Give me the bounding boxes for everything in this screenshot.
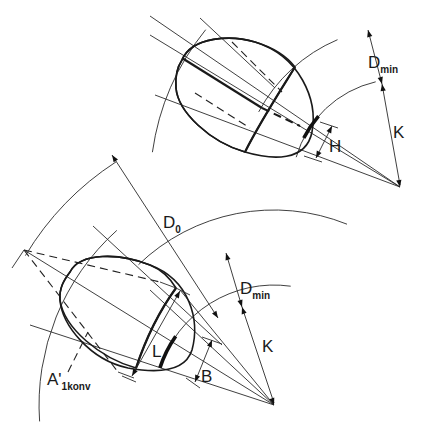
bottom-k-arrow-up xyxy=(242,307,247,315)
top-ray-axis xyxy=(150,35,400,187)
top-ray-upper xyxy=(150,16,400,187)
bottom-ray-upper-guide xyxy=(93,226,222,345)
top-axis-dashed xyxy=(262,108,300,126)
bottom-ray-lower xyxy=(30,325,274,405)
bottom-l-dim-line xyxy=(132,291,180,376)
top-ray-lower xyxy=(155,95,400,187)
bottom-ray-upper xyxy=(180,290,274,405)
top-guide-dashed-lower xyxy=(195,93,250,128)
bottom-a1konv-label: A'1konv xyxy=(47,370,91,392)
bottom-view: D0 Dmin K L B A'1konv xyxy=(12,155,347,421)
top-body-arc xyxy=(152,30,205,153)
top-dmin-arrow-up xyxy=(367,30,372,37)
bottom-outer-arc xyxy=(25,162,116,256)
bottom-dmin-label: Dmin xyxy=(240,279,270,301)
top-k-label: K xyxy=(393,123,405,142)
top-view: Dmin K H xyxy=(150,16,405,187)
bottom-l-ext-lower xyxy=(122,376,136,382)
top-view-geometry xyxy=(150,16,401,187)
bottom-b-label: B xyxy=(201,367,212,386)
top-dmin-label: Dmin xyxy=(368,53,398,75)
bottom-b-arc xyxy=(160,336,176,368)
top-dmin-arrow-down xyxy=(378,77,383,84)
top-outer-arc xyxy=(259,40,338,112)
bottom-dmin-arrow-down xyxy=(238,300,243,308)
top-h-label: H xyxy=(329,137,341,156)
bottom-dmin-arrow-up xyxy=(226,253,231,261)
bottom-l-label: L xyxy=(152,342,161,361)
bottom-d0-arrow-up xyxy=(112,155,118,162)
bottom-b-ext-lower xyxy=(186,378,200,388)
technical-diagram: Dmin K H D0 Dmin K L B A'1konv xyxy=(0,0,425,448)
bottom-d0-dim-line xyxy=(112,155,218,318)
top-h-ext-upper xyxy=(320,122,338,128)
top-h-arrow-up xyxy=(327,126,333,133)
diagram-canvas: Dmin K H D0 Dmin K L B A'1konv xyxy=(0,0,425,448)
bottom-poly-edge-bottom xyxy=(118,372,134,378)
bottom-k-label: K xyxy=(262,337,274,356)
bottom-l-arrow-up xyxy=(174,291,180,298)
bottom-body-arc xyxy=(39,230,117,421)
bottom-vertex-tick xyxy=(12,250,24,268)
top-k-arrow-up xyxy=(381,84,386,91)
bottom-d0-label: D0 xyxy=(163,213,181,235)
bottom-d0-arrow-down xyxy=(212,311,218,318)
